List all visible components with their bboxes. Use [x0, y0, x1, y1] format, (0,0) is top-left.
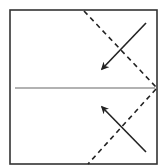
- fold-diagram: [0, 0, 165, 168]
